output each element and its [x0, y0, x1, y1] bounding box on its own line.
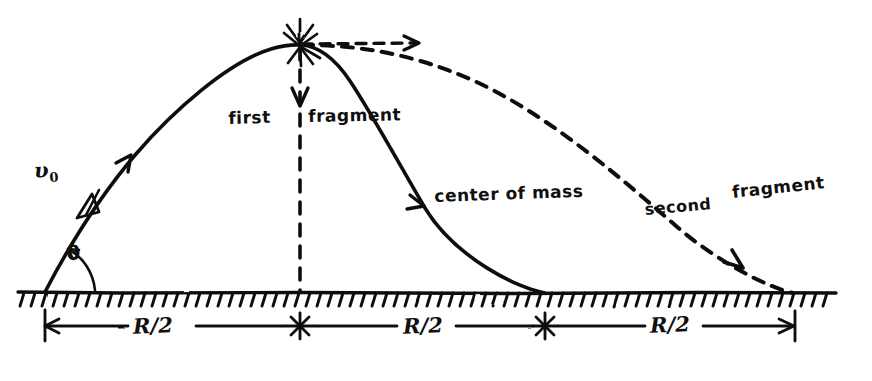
launch-angle-label: θ [66, 241, 81, 265]
horizontal-velocity-dashed-arrow [302, 43, 418, 44]
second-fragment-trajectory [302, 45, 793, 293]
dimension-label-right: R/2 [650, 311, 691, 337]
landing-arrow-icon [407, 195, 424, 209]
dimension-star-separator-2 [533, 313, 557, 339]
dimension-star-separator-1 [288, 313, 312, 339]
first-fragment-label-part1: first [228, 107, 271, 128]
ground-line [18, 292, 836, 294]
initial-velocity-subscript: 0 [49, 169, 60, 185]
second-fragment-arrow-icon [724, 250, 743, 268]
ground-hatching [20, 293, 827, 306]
projectile-explosion-diagram: υ0 θ first fragment center of mass secon… [0, 0, 872, 381]
initial-velocity-label: υ0 [33, 156, 60, 186]
initial-velocity-symbol: υ [33, 157, 50, 183]
dimension-label-left: R/2 [133, 312, 174, 338]
first-fragment-label-part2: fragment [308, 104, 401, 126]
dimension-label-middle: R/2 [403, 312, 444, 338]
center-of-mass-trajectory [45, 45, 545, 293]
